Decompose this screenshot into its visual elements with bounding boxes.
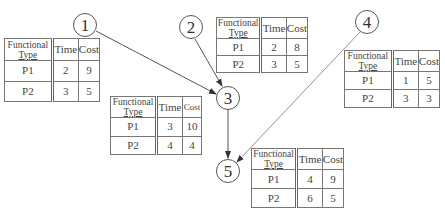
cell-time: 6 [297,189,323,208]
cell-cost: 5 [286,56,307,73]
table-row: P1 1 5 [345,72,440,90]
table-row: P1 3 10 [111,118,202,137]
cell-time: 3 [261,56,286,73]
header-time: Time [52,39,78,61]
header-time: Time [157,97,183,118]
header-time: Time [392,51,418,72]
node-3: 3 [216,86,240,110]
cell-cost: 9 [322,170,343,189]
node-2: 2 [179,15,203,39]
table-row: P2 3 5 [217,56,308,73]
node-4: 4 [355,10,379,34]
header-functional-type: FunctionalType [345,51,393,72]
cell-type: P2 [345,90,393,108]
cell-type: P1 [217,39,261,56]
cell-type: P1 [111,118,157,137]
cell-cost: 5 [418,72,439,90]
cell-cost: 8 [286,39,307,56]
node-1-label: 1 [81,17,90,34]
cell-time: 2 [52,61,78,82]
cell-time: 3 [157,118,183,137]
node-5-label: 5 [224,163,233,180]
cell-cost: 10 [183,118,202,137]
header-cost: Cost [286,18,307,39]
cell-time: 4 [157,136,183,155]
header-functional-type: FunctionalType [217,18,261,39]
table-row: P2 6 5 [252,189,344,208]
node-2-label: 2 [187,19,196,36]
cell-type: P1 [252,170,297,189]
cell-time: 1 [392,72,418,90]
cell-type: P2 [217,56,261,73]
cell-type: P2 [5,81,53,102]
cell-time: 3 [392,90,418,108]
table-row: P2 3 3 [345,90,440,108]
table-node-5: FunctionalType Time Cost P1 4 9 P2 6 5 [251,148,344,208]
cell-time: 2 [261,39,286,56]
table-row: P2 4 4 [111,136,202,155]
cell-cost: 3 [418,90,439,108]
cell-cost: 9 [78,61,99,82]
table-row: P1 2 9 [5,61,100,82]
header-cost: Cost [418,51,439,72]
node-3-label: 3 [224,90,233,107]
header-cost: Cost [183,97,202,118]
node-1: 1 [73,13,97,37]
node-4-label: 4 [363,14,372,31]
cell-cost: 5 [78,81,99,102]
cell-type: P1 [5,61,53,82]
header-functional-type: FunctionalType [111,97,157,118]
table-node-2: FunctionalType Time Cost P1 2 8 P2 3 5 [216,17,308,73]
cell-type: P1 [345,72,393,90]
edge-1-to-3 [96,31,216,94]
table-row: P1 4 9 [252,170,344,189]
header-time: Time [297,149,323,170]
cell-time: 4 [297,170,323,189]
table-node-1: FunctionalType Time Cost P1 2 9 P2 3 5 [4,38,100,102]
cell-type: P2 [252,189,297,208]
header-time: Time [261,18,286,39]
header-functional-type: FunctionalType [5,39,53,61]
header-functional-type: FunctionalType [252,149,297,170]
table-node-4: FunctionalType Time Cost P1 1 5 P2 3 3 [344,50,440,108]
header-cost: Cost [322,149,343,170]
cell-cost: 5 [322,189,343,208]
header-cost: Cost [78,39,99,61]
table-node-3: FunctionalType Time Cost P1 3 10 P2 4 4 [110,96,202,155]
table-row: P1 2 8 [217,39,308,56]
cell-cost: 4 [183,136,202,155]
cell-time: 3 [52,81,78,102]
cell-type: P2 [111,136,157,155]
table-row: P2 3 5 [5,81,100,102]
node-5: 5 [216,159,240,183]
